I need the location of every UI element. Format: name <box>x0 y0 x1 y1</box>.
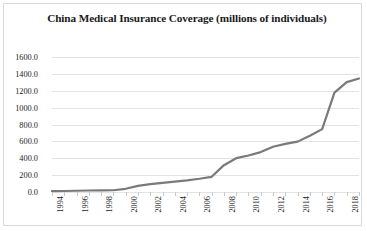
y-tick-label: 400.0 <box>0 154 38 163</box>
y-tick-label: 600.0 <box>0 137 38 146</box>
y-tick-label: 800.0 <box>0 120 38 129</box>
y-tick-label: 1400.0 <box>0 69 38 78</box>
x-tick-label: 2018 <box>351 196 360 213</box>
x-axis-labels: 1994199619982000200220042006200820102012… <box>52 196 359 231</box>
x-tick-label: 2002 <box>154 196 163 213</box>
x-tick-label: 2010 <box>252 196 261 213</box>
y-tick-label: 200.0 <box>0 171 38 180</box>
chart-frame: China Medical Insurance Coverage (millio… <box>3 3 362 226</box>
x-tick-label: 2016 <box>326 196 335 213</box>
chart-title: China Medical Insurance Coverage (millio… <box>42 11 332 26</box>
plot-area <box>52 57 359 192</box>
x-tick-label: 2004 <box>179 196 188 213</box>
line-series <box>52 57 359 192</box>
x-tick-label: 1994 <box>56 196 65 213</box>
x-tick-label: 1996 <box>81 196 90 213</box>
y-tick-label: 1600.0 <box>0 53 38 62</box>
x-tick-label: 2008 <box>228 196 237 213</box>
x-tick-label: 2000 <box>130 196 139 213</box>
series-polyline <box>52 79 359 192</box>
y-tick-label: 1200.0 <box>0 86 38 95</box>
x-tick-label: 2014 <box>302 196 311 213</box>
y-tick-label: 1000.0 <box>0 103 38 112</box>
x-tick-label: 2012 <box>277 196 286 213</box>
y-tick-label: 0.0 <box>0 188 38 197</box>
x-tick-label: 2006 <box>203 196 212 213</box>
x-tick-label: 1998 <box>105 196 114 213</box>
